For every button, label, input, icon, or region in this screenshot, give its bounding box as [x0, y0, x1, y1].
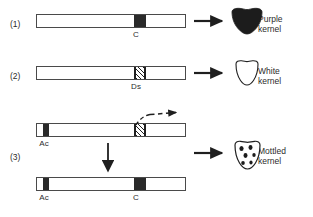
locus-ac-row3-bottom	[43, 178, 49, 190]
locus-ds-row3-top	[134, 124, 146, 136]
kernel-label-white-line2: kernel	[258, 76, 281, 86]
chromosome-bar-1	[36, 14, 186, 28]
row-number-2: (2)	[10, 71, 20, 81]
kernel-label-mottled-line2: kernel	[258, 156, 281, 166]
locus-c-row3-bottom	[134, 178, 146, 190]
locus-label-c-row3-bottom: C	[125, 193, 147, 202]
kernel-white	[236, 61, 258, 85]
locus-ds-row2	[134, 67, 146, 79]
kernel-mottled	[235, 141, 260, 169]
genetics-diagram: (1) C Purple kernel (2) Ds White kernel …	[0, 0, 313, 217]
locus-label-ac-row3-bottom: Ac	[32, 193, 56, 202]
chromosome-bar-3-top	[36, 123, 186, 137]
kernel-label-mottled-line1: Mottled	[258, 146, 286, 156]
row-number-3: (3)	[10, 152, 20, 162]
locus-label-ac-row3-top: Ac	[32, 139, 56, 148]
chromosome-bar-2	[36, 66, 186, 80]
kernel-label-white-line1: White	[258, 66, 280, 76]
locus-ac-row3-top	[43, 124, 49, 136]
locus-label-ds-row2: Ds	[124, 82, 148, 91]
locus-label-c-row1: C	[125, 30, 147, 39]
chromosome-bar-3-bottom	[36, 177, 186, 191]
locus-c-row1	[134, 15, 146, 27]
row-number-1: (1)	[10, 19, 20, 29]
kernel-label-purple-line2: kernel	[258, 24, 281, 34]
kernel-label-purple-line1: Purple	[258, 14, 283, 24]
